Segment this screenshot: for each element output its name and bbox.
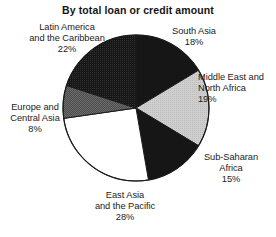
slice-label-value: 18% bbox=[152, 37, 236, 48]
slice-label-line: and the Pacific bbox=[70, 201, 180, 212]
pie-chart-figure: By total loan or credit amount bbox=[0, 0, 276, 237]
slice-label-sub-saharan-africa: Sub-Saharan Africa 15% bbox=[190, 152, 272, 186]
slice-label-line: Africa bbox=[190, 163, 272, 174]
pie-slice-east-asia-pacific[interactable] bbox=[64, 108, 149, 181]
slice-label-line: Europe and bbox=[2, 102, 68, 113]
slice-label-middle-east-north-africa: Middle East and North Africa 19% bbox=[198, 72, 276, 106]
slice-label-line: Sub-Saharan bbox=[190, 152, 272, 163]
slice-label-value: 8% bbox=[2, 124, 68, 135]
slice-label-line: South Asia bbox=[152, 26, 236, 37]
slice-label-europe-central-asia: Europe and Central Asia 8% bbox=[2, 102, 68, 136]
slice-label-line: North Africa bbox=[198, 83, 276, 94]
slice-label-value: 22% bbox=[8, 44, 126, 55]
slice-label-east-asia-pacific: East Asia and the Pacific 28% bbox=[70, 190, 180, 224]
slice-label-south-asia: South Asia 18% bbox=[152, 26, 236, 48]
slice-label-line: Middle East and bbox=[198, 72, 276, 83]
slice-label-value: 28% bbox=[70, 212, 180, 223]
pie-slices bbox=[63, 35, 209, 181]
slice-label-line: Latin America bbox=[8, 22, 126, 33]
slice-label-line: and the Caribbean bbox=[8, 33, 126, 44]
slice-label-line: East Asia bbox=[70, 190, 180, 201]
slice-label-value: 19% bbox=[198, 94, 276, 105]
slice-label-value: 15% bbox=[190, 174, 272, 185]
slice-label-line: Central Asia bbox=[2, 113, 68, 124]
slice-label-latin-america-caribbean: Latin America and the Caribbean 22% bbox=[8, 22, 126, 56]
